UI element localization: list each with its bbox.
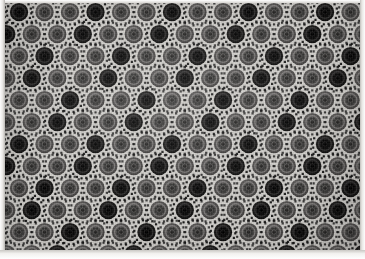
fabric-swatch	[5, 0, 360, 251]
left-paper-edge	[0, 0, 5, 259]
bottom-paper-edge	[0, 250, 365, 259]
right-paper-edge	[360, 0, 365, 259]
top-paper-edge	[0, 0, 365, 3]
textile-photo: Repeating grid of circular sunburst meda…	[0, 0, 365, 259]
medallion-pattern-grid	[5, 0, 360, 251]
